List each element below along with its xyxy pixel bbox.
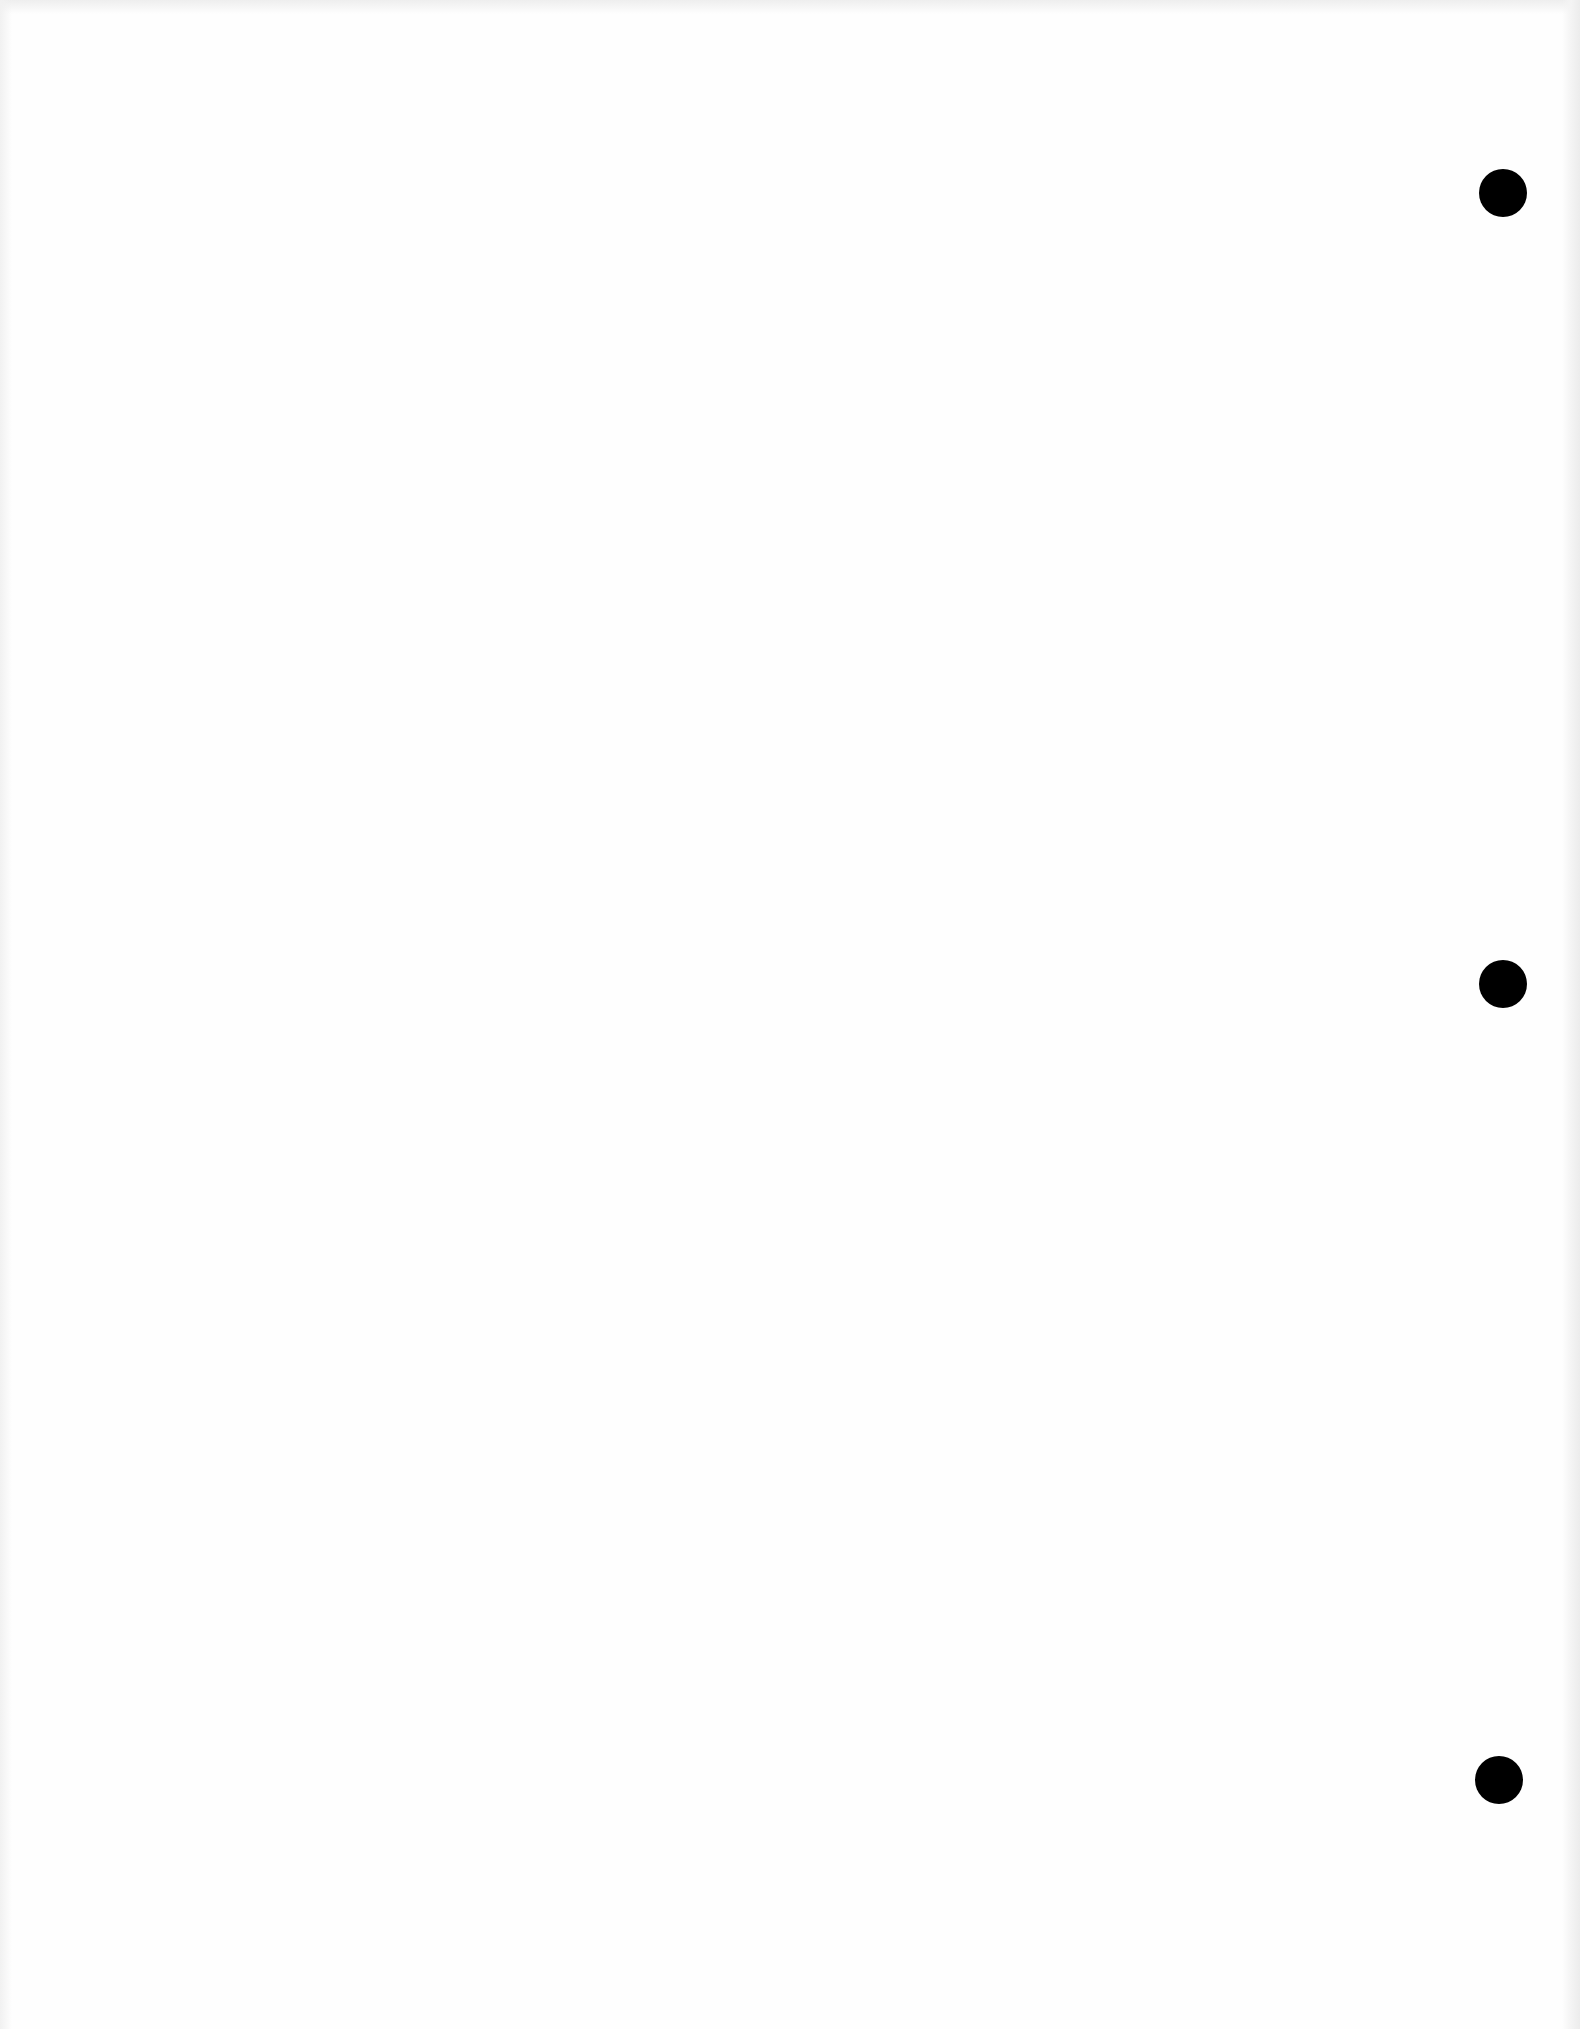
scan-edge-shadow-left (0, 0, 12, 2029)
scan-edge-shadow-right (1562, 0, 1580, 2029)
scan-edge-shadow-top (0, 0, 1580, 14)
punch-hole-middle (1479, 960, 1527, 1008)
punch-hole-bottom (1475, 1756, 1523, 1804)
scanned-page (0, 0, 1580, 2029)
punch-hole-top (1479, 169, 1527, 217)
